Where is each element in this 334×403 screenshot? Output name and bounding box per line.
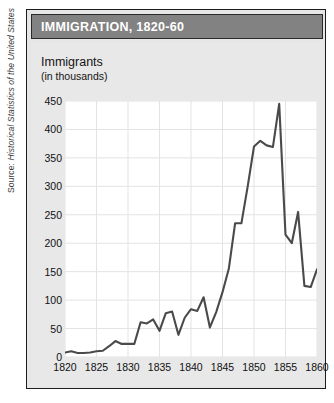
x-tick-label: 1820 <box>53 361 76 373</box>
chart-title-bar: IMMIGRATION, 1820-60 <box>31 14 323 39</box>
figure-panel: IMMIGRATION, 1820-60 Immigrants (in thou… <box>26 9 326 389</box>
x-tick-label: 1850 <box>242 361 265 373</box>
chart-title: IMMIGRATION, 1820-60 <box>41 20 184 34</box>
plot-area <box>65 101 317 357</box>
x-tick-label: 1860 <box>305 361 328 373</box>
x-tick-label: 1840 <box>179 361 202 373</box>
y-axis-caption-main: Immigrants <box>41 55 108 70</box>
y-axis-tick-labels: 050100150200250300350400450 <box>31 101 62 357</box>
x-tick-label: 1830 <box>116 361 139 373</box>
y-tick-label: 100 <box>32 294 62 306</box>
y-tick-label: 200 <box>32 237 62 249</box>
chart-panel-body: Immigrants (in thousands) 05010015020025… <box>31 41 323 386</box>
y-axis-caption: Immigrants (in thousands) <box>41 55 108 83</box>
x-tick-label: 1825 <box>85 361 108 373</box>
y-tick-label: 50 <box>32 323 62 335</box>
y-tick-label: 250 <box>32 209 62 221</box>
x-tick-label: 1845 <box>211 361 234 373</box>
x-axis-tick-labels: 182018251830183518401845185018551860 <box>65 361 317 377</box>
immigration-line-chart <box>65 101 317 357</box>
y-axis-caption-sub: (in thousands) <box>41 70 108 83</box>
y-tick-label: 450 <box>32 95 62 107</box>
source-credit-title: Historical Statistics of the United Stat… <box>6 8 16 161</box>
source-credit: Source: Historical Statistics of the Uni… <box>0 8 22 308</box>
source-credit-text: Source: Historical Statistics of the Uni… <box>7 8 16 193</box>
x-tick-label: 1835 <box>148 361 171 373</box>
y-tick-label: 400 <box>32 123 62 135</box>
grid-lines <box>65 101 317 357</box>
source-credit-label: Source: <box>6 161 16 193</box>
y-tick-label: 150 <box>32 266 62 278</box>
y-tick-label: 350 <box>32 152 62 164</box>
y-tick-label: 300 <box>32 180 62 192</box>
x-tick-label: 1855 <box>274 361 297 373</box>
